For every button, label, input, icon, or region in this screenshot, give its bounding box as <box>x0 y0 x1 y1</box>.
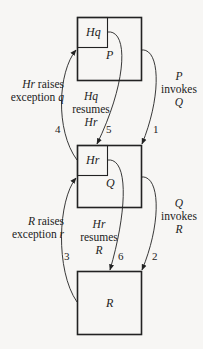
arrow-5-label-line3: Hr <box>72 116 110 129</box>
arrow-3-label-var: r <box>60 228 64 240</box>
arrow-4-label-text: exception <box>11 91 59 103</box>
arrow-4-label-var: q <box>58 91 64 103</box>
arrow-1-step-number: 1 <box>153 123 159 135</box>
arrow-5-step-number: 5 <box>106 123 112 135</box>
box-r-label: R <box>106 296 113 311</box>
arrow-4-label-subject: Hr <box>22 78 35 90</box>
arrow-1-label: P invokes Q <box>158 70 200 109</box>
diagram-canvas <box>0 0 203 349</box>
box-p-label: P <box>106 48 113 63</box>
arrow-5-label-line2: resumes <box>72 103 110 116</box>
arrow-2-label-line2: invokes <box>158 210 200 223</box>
arrow-2-label: Q invokes R <box>158 197 200 236</box>
handler-hr-label: Hr <box>86 153 99 168</box>
arrow-2-step-number: 2 <box>152 250 158 262</box>
arrow-1-label-line3: Q <box>158 96 200 109</box>
arrow-6-label: Hr resumes R <box>80 218 118 257</box>
arrow-3-label-text: exception <box>12 228 60 240</box>
arrow-2-label-line3: R <box>158 223 200 236</box>
arrow-3-label-subject: R <box>28 215 35 227</box>
arrow-6-label-line1: Hr <box>80 218 118 231</box>
handler-hq-label: Hq <box>86 25 101 40</box>
arrow-3-label-verb: raises <box>35 215 64 227</box>
arrow-5-label-line1: Hq <box>72 90 110 103</box>
arrow-6-label-line2: resumes <box>80 231 118 244</box>
arrow-1-label-line1: P <box>158 70 200 83</box>
arrow-4-label: Hr raises exception q <box>6 78 64 104</box>
arrow-1-label-line2: invokes <box>158 83 200 96</box>
arrow-2-label-line1: Q <box>158 197 200 210</box>
arrow-6-label-line3: R <box>80 244 118 257</box>
arrow-3-step-number: 3 <box>64 250 70 262</box>
arrow-3-label: R raises exception r <box>6 215 64 241</box>
arrow-4-step-number: 4 <box>55 123 61 135</box>
arrow-6-step-number: 6 <box>118 250 124 262</box>
arrow-5-label: Hq resumes Hr <box>72 90 110 129</box>
box-q-label: Q <box>106 176 115 191</box>
arrow-4-label-verb: raises <box>35 78 64 90</box>
